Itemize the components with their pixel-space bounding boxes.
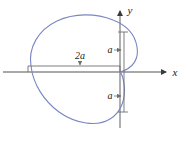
dimension-2a: 2a [28, 50, 120, 72]
x-axis-label: x [172, 66, 178, 78]
dimension-lower-a-label: a [108, 90, 113, 101]
y-axis-label: y [127, 4, 133, 16]
cardioid-curve [30, 15, 137, 124]
dimension-upper-a-label: a [108, 44, 113, 55]
figure-canvas: x y 2a a a [0, 0, 188, 145]
cardioid-figure: x y 2a a a [0, 0, 188, 145]
dimension-2a-label: 2a [75, 50, 85, 61]
cardioid-curve-group [30, 15, 137, 124]
